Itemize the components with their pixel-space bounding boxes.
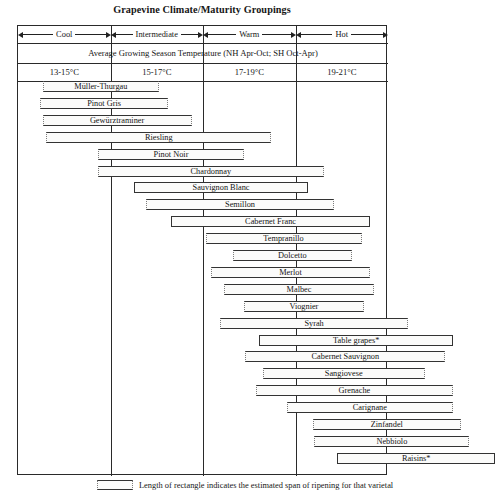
arrow-right-icon (383, 32, 388, 38)
variety-bar: Gewürztraminer (43, 115, 192, 126)
variety-bar: Sangiovese (263, 368, 425, 379)
variety-bar: Müller-Thurgau (43, 81, 160, 92)
variety-bars-layer: Müller-ThurgauPinot GrisGewürztraminerRi… (18, 81, 388, 475)
legend: Length of rectangle indicates the estima… (17, 478, 387, 492)
variety-bar: Pinot Noir (98, 149, 245, 160)
variety-bar: Raisins* (337, 453, 495, 464)
variety-bar: Cabernet Franc (171, 216, 371, 227)
variety-bar: Syrah (220, 318, 408, 329)
variety-bar: Malbec (224, 284, 374, 295)
climate-class-warm: Warm (203, 26, 296, 43)
variety-bar: Riesling (46, 132, 271, 143)
variety-bar: Nebbiolo (314, 436, 469, 447)
variety-bar: Dolcetto (233, 250, 352, 261)
variety-bar: Sauvignon Blanc (134, 182, 308, 193)
variety-bar: Zinfandel (313, 419, 461, 430)
temp-range-cool: 13-15°C (18, 63, 111, 81)
page-title: Grapevine Climate/Maturity Groupings (0, 4, 404, 15)
variety-bar: Pinot Gris (40, 98, 168, 109)
variety-bar: Tempranillo (206, 233, 362, 244)
climate-label-hot: Hot (332, 26, 351, 43)
climate-label-warm: Warm (236, 26, 262, 43)
temp-range-intermediate: 15-17°C (111, 63, 204, 81)
climate-label-intermediate: Intermediate (133, 26, 181, 43)
climate-maturity-chart: Cool Intermediate Warm Hot (17, 25, 387, 475)
temp-range-warm: 17-19°C (203, 63, 296, 81)
variety-bar: Table grapes* (259, 335, 453, 346)
climate-label-cool: Cool (53, 26, 75, 43)
variety-bar: Semillon (146, 199, 334, 210)
variety-bar: Carignane (287, 402, 454, 413)
climate-class-cool: Cool (18, 26, 111, 43)
variety-bar: Grenache (256, 385, 454, 396)
legend-text: Length of rectangle indicates the estima… (139, 481, 393, 490)
legend-swatch-icon (97, 480, 133, 490)
variety-bar: Merlot (211, 267, 371, 278)
variety-bar: Viognier (244, 301, 364, 312)
temp-range-hot: 19-21°C (296, 63, 389, 81)
variety-bar: Cabernet Sauvignon (245, 351, 445, 362)
climate-class-intermediate: Intermediate (111, 26, 204, 43)
climate-class-hot: Hot (296, 26, 389, 43)
variety-bar: Chardonnay (98, 166, 324, 177)
avg-growing-season-temperature-label: Average Growing Season Temperature (NH A… (18, 43, 388, 63)
